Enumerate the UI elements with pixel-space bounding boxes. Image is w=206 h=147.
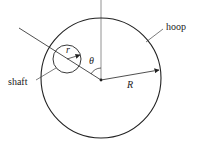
hoop-label: hoop [166, 21, 186, 32]
r-label: r [66, 44, 70, 55]
shaft-leader-line [36, 68, 56, 80]
hoop-leader-line [146, 29, 163, 42]
hoop-shaft-diagram: hoop shaft R r θ [0, 0, 206, 147]
theta-arc [91, 68, 101, 74]
shaft-label: shaft [8, 76, 28, 87]
theta-label: θ [89, 55, 94, 66]
angle-line [19, 28, 101, 80]
R-label: R [126, 79, 133, 90]
r-arrow [67, 55, 80, 59]
center-point [100, 79, 103, 82]
